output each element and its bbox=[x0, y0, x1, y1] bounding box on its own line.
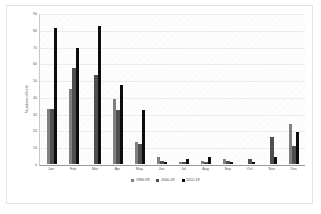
x-axis-tick-label: Dec bbox=[283, 167, 305, 171]
bar-group bbox=[283, 14, 305, 164]
legend-swatch-icon bbox=[182, 179, 185, 182]
bar[interactable] bbox=[98, 26, 101, 164]
bar[interactable] bbox=[274, 157, 277, 164]
chart-legend: 1990-992000-092010-19 bbox=[26, 178, 305, 182]
y-axis-tick-label: 30 bbox=[33, 113, 37, 117]
x-axis-tick-label: Sep bbox=[217, 167, 239, 171]
y-axis-tick-label: 80 bbox=[33, 29, 37, 33]
bar[interactable] bbox=[76, 48, 79, 164]
y-axis-tick-label: 0 bbox=[35, 163, 37, 167]
y-axis-tick-labels: 0102030405060708090 bbox=[26, 14, 38, 166]
bar[interactable] bbox=[54, 28, 57, 164]
legend-label: 2010-19 bbox=[186, 178, 200, 182]
legend-item[interactable]: 2010-19 bbox=[182, 178, 200, 182]
x-axis-tick-label: Apr bbox=[106, 167, 128, 171]
bar-group bbox=[217, 14, 239, 164]
bar[interactable] bbox=[252, 162, 255, 164]
x-axis-tick-label: Feb bbox=[62, 167, 84, 171]
x-axis-tick-label: Nov bbox=[261, 167, 283, 171]
bar-group bbox=[41, 14, 63, 164]
y-axis-tick-label: 60 bbox=[33, 62, 37, 66]
plot-wrapper: Numbers of birth 0102030405060708090 Jan… bbox=[26, 14, 305, 184]
bar-group bbox=[129, 14, 151, 164]
x-axis-tick-label: Jun bbox=[150, 167, 172, 171]
bar-group bbox=[107, 14, 129, 164]
bar[interactable] bbox=[230, 162, 233, 164]
bar[interactable] bbox=[186, 159, 189, 164]
x-axis-tick-label: May bbox=[128, 167, 150, 171]
legend-label: 2000-09 bbox=[161, 178, 175, 182]
x-axis-tick-labels: JanFebMarAprMayJunJulAugSepOctNovDec bbox=[40, 167, 305, 171]
bar-group bbox=[261, 14, 283, 164]
x-axis-tick-label: Oct bbox=[239, 167, 261, 171]
chart-container: Numbers of birth 0102030405060708090 Jan… bbox=[6, 5, 313, 204]
legend-swatch-icon bbox=[156, 179, 159, 182]
bar[interactable] bbox=[120, 85, 123, 164]
bar[interactable] bbox=[142, 110, 145, 164]
bar[interactable] bbox=[164, 162, 167, 164]
y-axis-tick-label: 20 bbox=[33, 129, 37, 133]
legend-item[interactable]: 1990-99 bbox=[131, 178, 149, 182]
bar-group bbox=[151, 14, 173, 164]
x-axis-tick-label: Jul bbox=[172, 167, 194, 171]
bar-group bbox=[239, 14, 261, 164]
y-axis-tick-label: 50 bbox=[33, 79, 37, 83]
x-axis-tick-label: Aug bbox=[195, 167, 217, 171]
y-axis-tick-label: 10 bbox=[33, 146, 37, 150]
bar-group bbox=[195, 14, 217, 164]
x-axis-tick-label: Mar bbox=[84, 167, 106, 171]
bar-group bbox=[173, 14, 195, 164]
x-axis-tick-label: Jan bbox=[40, 167, 62, 171]
bars-layer bbox=[41, 14, 305, 164]
y-axis-tick-label: 70 bbox=[33, 46, 37, 50]
legend-label: 1990-99 bbox=[136, 178, 150, 182]
bar-group bbox=[85, 14, 107, 164]
bar-group bbox=[63, 14, 85, 164]
bar[interactable] bbox=[296, 132, 299, 164]
legend-item[interactable]: 2000-09 bbox=[156, 178, 174, 182]
y-axis-tick-label: 90 bbox=[33, 12, 37, 16]
legend-swatch-icon bbox=[131, 179, 134, 182]
bar[interactable] bbox=[208, 157, 211, 164]
y-axis-tick-label: 40 bbox=[33, 96, 37, 100]
plot-area bbox=[39, 14, 305, 166]
